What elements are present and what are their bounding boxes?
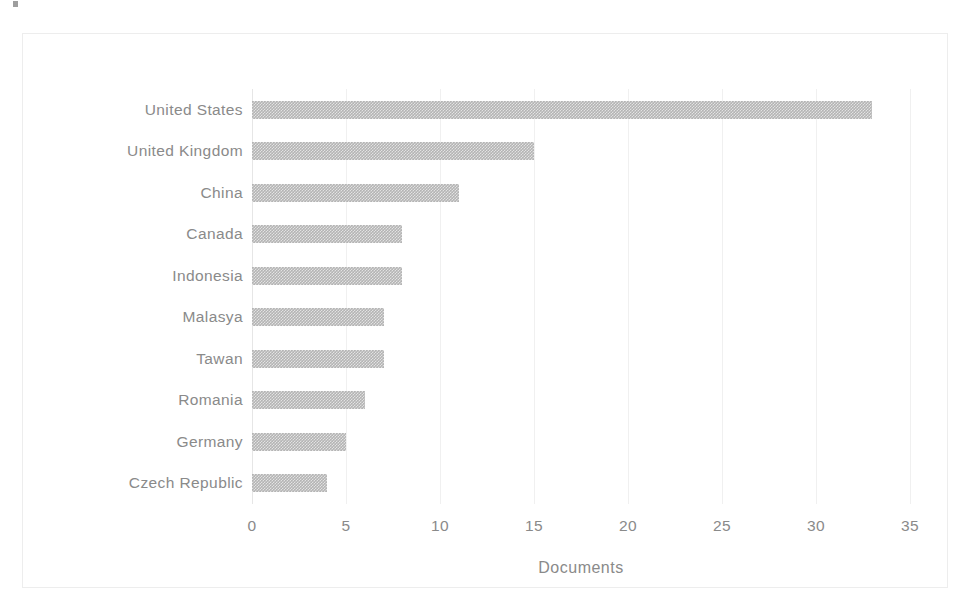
- bar: [252, 433, 346, 451]
- bar: [252, 474, 327, 492]
- bar-row: [252, 89, 910, 131]
- plot-area: [252, 89, 910, 504]
- y-axis-label: United States: [53, 89, 243, 131]
- x-axis-tick-30: 30: [807, 517, 825, 535]
- x-axis-tick-10: 10: [431, 517, 449, 535]
- bar-row: [252, 463, 910, 505]
- x-axis-tick-0: 0: [247, 517, 256, 535]
- bar-row: [252, 172, 910, 214]
- bar: [252, 184, 459, 202]
- y-axis-label: Indonesia: [53, 255, 243, 297]
- bar: [252, 225, 402, 243]
- bar-row: [252, 338, 910, 380]
- y-axis-label: Romania: [53, 380, 243, 422]
- bar: [252, 350, 384, 368]
- x-axis-tick-15: 15: [525, 517, 543, 535]
- y-axis-label: China: [53, 172, 243, 214]
- bar: [252, 267, 402, 285]
- bar: [252, 391, 365, 409]
- x-axis-tick-25: 25: [713, 517, 731, 535]
- y-axis-label: United Kingdom: [53, 131, 243, 173]
- y-axis-category-labels: United StatesUnited KingdomChinaCanadaIn…: [53, 89, 243, 504]
- y-axis-label: Czech Republic: [53, 463, 243, 505]
- bar: [252, 142, 534, 160]
- bar-row: [252, 421, 910, 463]
- x-axis-tick-20: 20: [619, 517, 637, 535]
- bar-chart: United StatesUnited KingdomChinaCanadaIn…: [22, 33, 948, 588]
- x-axis-tick-labels: 05101520253035: [252, 517, 910, 539]
- y-axis-label: Germany: [53, 421, 243, 463]
- bar-row: [252, 131, 910, 173]
- scan-artifact-speck: [13, 1, 18, 7]
- bar: [252, 101, 872, 119]
- y-axis-label: Canada: [53, 214, 243, 256]
- bar: [252, 308, 384, 326]
- x-axis-tick-5: 5: [341, 517, 350, 535]
- bar-row: [252, 380, 910, 422]
- bar-row: [252, 214, 910, 256]
- x-axis-tick-35: 35: [901, 517, 919, 535]
- bar-series: [252, 89, 910, 504]
- gridline-35: [910, 89, 911, 504]
- y-axis-label: Tawan: [53, 338, 243, 380]
- x-axis-title: Documents: [252, 559, 910, 577]
- bar-row: [252, 297, 910, 339]
- bar-row: [252, 255, 910, 297]
- y-axis-label: Malasya: [53, 297, 243, 339]
